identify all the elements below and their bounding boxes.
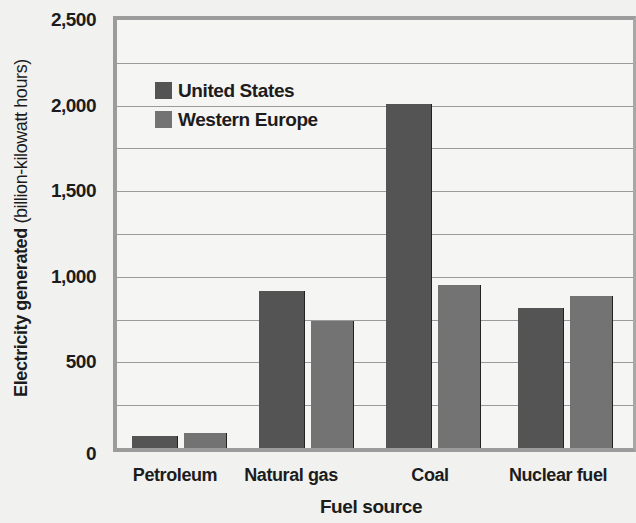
bar-western-europe-nuclear-fuel: [570, 296, 612, 448]
legend-swatch-icon: [155, 111, 172, 128]
y-tick-label: 2,500: [51, 9, 96, 31]
y-tick-label: 1,000: [51, 266, 96, 288]
x-tick-label: Petroleum: [133, 465, 217, 486]
gridline: [117, 234, 633, 235]
legend-label: United States: [178, 80, 294, 102]
gridline: [117, 191, 633, 192]
gridline: [117, 277, 633, 278]
x-tick-label: Coal: [411, 465, 448, 486]
legend-swatch-icon: [155, 82, 172, 99]
y-axis-label: Electricity generated (billion-kilowatt …: [11, 59, 32, 397]
y-tick-label: 1,500: [51, 180, 96, 202]
legend-item: Western Europe: [155, 105, 318, 134]
y-axis-label-units: (billion-kilowatt hours): [11, 59, 31, 228]
legend-label: Western Europe: [178, 109, 318, 131]
bar-united-states-coal: [386, 104, 431, 448]
y-tick-label: 0: [86, 443, 96, 465]
bar-western-europe-natural-gas: [311, 321, 353, 448]
gridline: [117, 63, 633, 64]
legend-item: United States: [155, 76, 318, 105]
y-tick-label: 500: [66, 351, 96, 373]
x-axis-label: Fuel source: [320, 496, 422, 518]
y-axis-label-bold: Electricity generated: [11, 228, 31, 397]
bar-united-states-natural-gas: [259, 291, 304, 448]
bar-western-europe-petroleum: [184, 433, 226, 448]
gridline: [117, 148, 633, 149]
x-tick-label: Nuclear fuel: [509, 465, 607, 486]
legend: United StatesWestern Europe: [155, 76, 318, 134]
y-tick-label: 2,000: [51, 95, 96, 117]
bar-united-states-petroleum: [132, 436, 177, 448]
x-tick-label: Natural gas: [244, 465, 338, 486]
bar-united-states-nuclear-fuel: [518, 308, 563, 448]
bar-western-europe-coal: [438, 285, 480, 448]
